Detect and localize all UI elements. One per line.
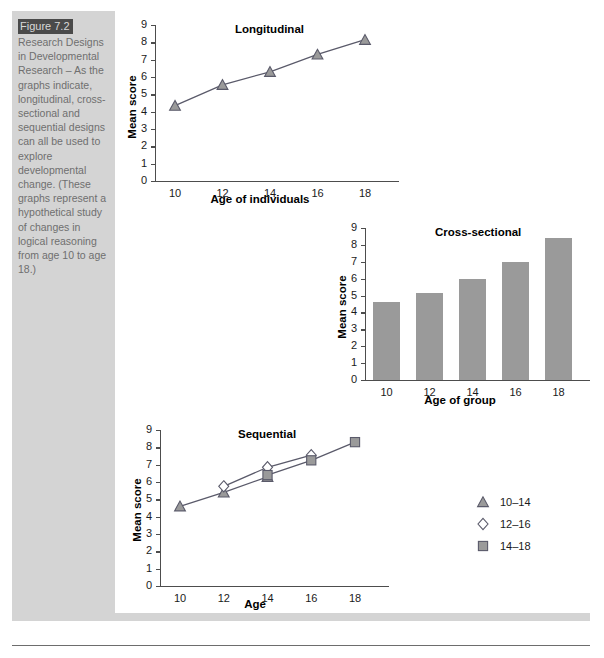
figure-caption-text: Research Designs in Developmental Resear… bbox=[18, 35, 107, 276]
y-axis-tick bbox=[361, 346, 365, 347]
legend-item-label: 10–14 bbox=[500, 496, 531, 508]
legend-item: 14–18 bbox=[475, 535, 565, 557]
y-axis-tick-label: 9 bbox=[337, 222, 357, 233]
y-axis-tick bbox=[361, 312, 365, 313]
y-axis-tick-label: 5 bbox=[337, 290, 357, 301]
x-axis-line bbox=[365, 380, 590, 381]
figure-caption-column: Figure 7.2 Research Designs in Developme… bbox=[12, 11, 115, 621]
y-axis-tick-label: 8 bbox=[337, 239, 357, 250]
y-axis-tick bbox=[361, 262, 365, 263]
triangle-marker-icon bbox=[475, 494, 491, 510]
y-axis-line bbox=[365, 228, 366, 381]
x-axis-tick-label: 16 bbox=[496, 387, 536, 398]
y-axis-tick-label: 2 bbox=[337, 340, 357, 351]
y-axis-tick-label: 6 bbox=[337, 273, 357, 284]
chart-sequential: Sequential Mean score Age 01234567891012… bbox=[120, 416, 450, 611]
bar bbox=[545, 238, 572, 380]
legend-item-label: 14–18 bbox=[500, 540, 531, 552]
x-axis-tick-label: 10 bbox=[367, 387, 407, 398]
y-axis-tick-label: 3 bbox=[337, 323, 357, 334]
diamond-marker-icon bbox=[475, 516, 491, 532]
bar bbox=[416, 293, 443, 380]
legend-item: 10–14 bbox=[475, 491, 565, 513]
legend-item-label: 12–16 bbox=[500, 518, 531, 530]
y-axis-tick-label: 7 bbox=[337, 256, 357, 267]
y-axis-tick-label: 4 bbox=[337, 306, 357, 317]
legend-sequential: 10–1412–1614–18 bbox=[475, 491, 565, 557]
series-longitudinal bbox=[115, 11, 415, 211]
x-axis-tick-label: 18 bbox=[539, 387, 579, 398]
y-axis-tick bbox=[361, 245, 365, 246]
y-axis-tick bbox=[361, 380, 365, 381]
chart-cross-sectional: Cross-sectional Mean score Age of group … bbox=[325, 216, 590, 411]
y-axis-tick bbox=[361, 329, 365, 330]
figure-number-label: Figure 7.2 bbox=[18, 19, 73, 34]
y-axis-tick bbox=[361, 279, 365, 280]
y-axis-tick-label: 0 bbox=[337, 374, 357, 385]
x-axis-tick-label: 12 bbox=[410, 387, 450, 398]
page-divider-rule bbox=[12, 645, 590, 646]
y-axis-tick bbox=[361, 296, 365, 297]
bar bbox=[373, 302, 400, 380]
bar bbox=[502, 262, 529, 380]
series-sequential bbox=[120, 416, 450, 613]
y-axis-tick bbox=[361, 228, 365, 229]
charts-panel: Longitudinal Mean score Age of individua… bbox=[115, 11, 590, 613]
y-axis-tick-label: 1 bbox=[337, 357, 357, 368]
legend-item: 12–16 bbox=[475, 513, 565, 535]
y-axis-tick bbox=[361, 363, 365, 364]
square-marker-icon bbox=[475, 538, 491, 554]
figure-block: Figure 7.2 Research Designs in Developme… bbox=[12, 11, 590, 621]
chart-longitudinal: Longitudinal Mean score Age of individua… bbox=[115, 11, 415, 211]
bar bbox=[459, 279, 486, 380]
x-axis-tick-label: 14 bbox=[453, 387, 493, 398]
